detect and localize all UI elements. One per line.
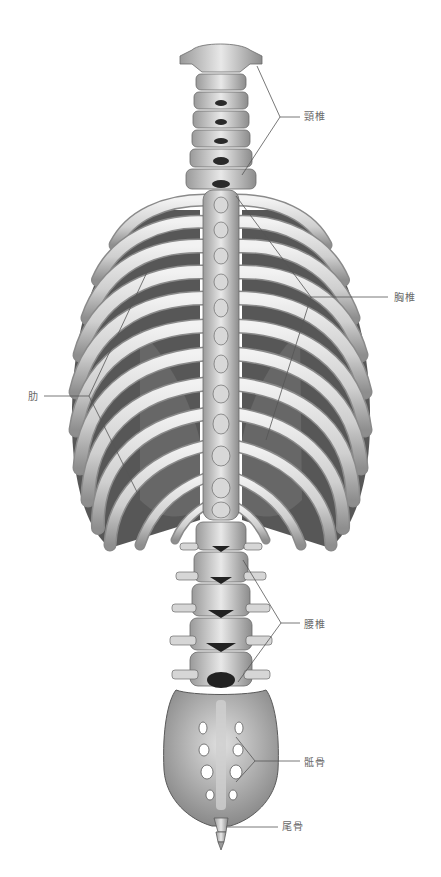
coccyx [214, 818, 228, 850]
label-coccyx: 尾骨 [282, 821, 304, 833]
label-cervical-vertebrae: 頸椎 [304, 111, 326, 123]
label-sacrum: 骶骨 [304, 757, 326, 769]
spine-ribcage-illustration [0, 0, 441, 877]
lumbar-vertebrae [170, 522, 272, 688]
cervical-vertebrae [180, 44, 262, 189]
label-lumbar-vertebrae: 腰椎 [304, 619, 326, 631]
thoracic-vertebrae [203, 190, 239, 520]
sacrum [164, 690, 279, 826]
leader-cervical [257, 66, 300, 117]
label-ribs: 肋 [28, 391, 39, 403]
leader-lumbar [243, 560, 300, 623]
label-thoracic-vertebrae: 胸椎 [394, 292, 416, 304]
